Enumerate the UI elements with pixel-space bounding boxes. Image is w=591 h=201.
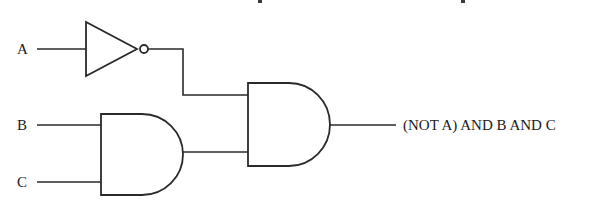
- cropped-text-fragment: [461, 0, 465, 3]
- not-gate-bubble: [140, 45, 148, 53]
- and-gate-main: [248, 83, 330, 166]
- input-a-label: A: [17, 42, 28, 57]
- circuit-svg: [0, 0, 591, 201]
- output-expression-label: (NOT A) AND B AND C: [403, 118, 556, 133]
- and-gate-bc: [101, 114, 183, 195]
- not-gate: [86, 22, 137, 76]
- input-b-label: B: [17, 118, 27, 133]
- logic-circuit-diagram: A B C (NOT A) AND B AND C: [0, 0, 591, 201]
- cropped-text-fragment: [258, 0, 262, 3]
- input-c-label: C: [17, 175, 27, 190]
- not-output-wire: [148, 49, 248, 95]
